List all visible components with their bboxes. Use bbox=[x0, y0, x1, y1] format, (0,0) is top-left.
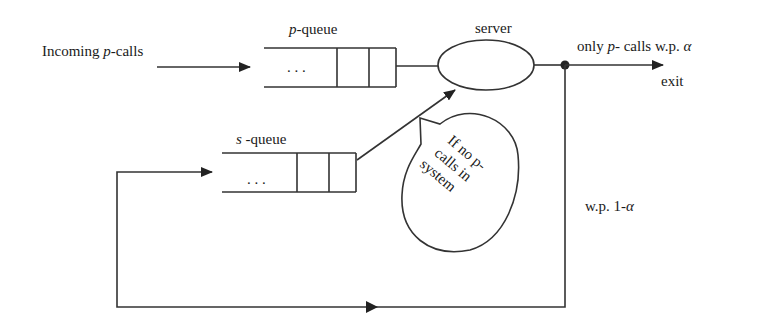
feedback-probability-label: w.p. 1-α bbox=[585, 198, 635, 214]
feedback-arrowhead bbox=[366, 301, 378, 313]
incoming-label: Incoming p-calls bbox=[42, 43, 143, 59]
exit-probability-label: only p- calls w.p. α bbox=[577, 38, 693, 54]
p-queue-ellipsis: . . . bbox=[287, 59, 306, 75]
p-queue bbox=[264, 48, 396, 87]
feedback-loop bbox=[117, 65, 565, 307]
exit-label: exit bbox=[661, 73, 684, 89]
s-queue-ellipsis: . . . bbox=[247, 171, 266, 187]
condition-bubble bbox=[402, 113, 519, 251]
s-queue-label: s -queue bbox=[236, 131, 287, 147]
server-label: server bbox=[475, 20, 512, 36]
s-queue bbox=[222, 153, 356, 192]
server-node bbox=[438, 40, 534, 90]
p-queue-label: p-queue bbox=[288, 21, 338, 37]
condition-text: If no p- calls in system bbox=[417, 128, 489, 201]
queueing-diagram: Incoming p-calls p-queue . . . server on… bbox=[0, 0, 764, 330]
